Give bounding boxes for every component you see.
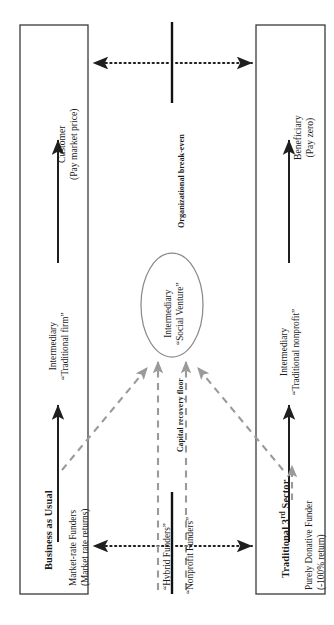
third-sector-title: Traditional 3rd Sector: [278, 480, 293, 578]
label-business-as-usual-body: Market-rate Funders (Market rate returns…: [68, 509, 92, 586]
dashed-arrow-from-third-sector: [198, 368, 283, 470]
beneficiary-line2: (Pay zero): [304, 115, 316, 160]
third-sector-title-pre: Traditional 3: [280, 519, 291, 578]
social-venture-line2: “Social Venture”: [175, 282, 187, 345]
third-sector-line1: Purely Donative Funder: [304, 501, 316, 590]
intermediary-right-line2: “Traditional nonprofit”: [291, 309, 303, 395]
label-organizational-break-even: Organizational break-even: [177, 134, 188, 228]
label-intermediary-traditional-firm: Intermediary “Traditional firm”: [48, 312, 72, 380]
label-capital-recovery-floor: Capital recovery floor: [176, 378, 186, 452]
hybrid-funders-text: “Hybrid Funders”: [162, 523, 174, 590]
beneficiary-line1: Beneficiary: [292, 115, 304, 160]
label-customer: Customer (Pay market price): [56, 109, 81, 180]
label-business-as-usual-title: Business as Usual: [42, 490, 55, 570]
customer-line1: Customer: [56, 109, 68, 180]
capital-recovery-text: Capital recovery floor: [176, 378, 186, 452]
nonprofit-funders-text: “Nonprofit Funders”: [185, 517, 197, 594]
label-nonprofit-funders: “Nonprofit Funders”: [185, 517, 197, 594]
third-sector-title-sup: rd: [278, 511, 287, 519]
label-hybrid-funders: “Hybrid Funders”: [162, 523, 174, 590]
dashed-arrow-from-business: [62, 368, 147, 470]
break-even-text: Organizational break-even: [177, 134, 188, 228]
label-third-sector-title: Traditional 3rd Sector: [278, 480, 293, 578]
label-beneficiary: Beneficiary (Pay zero): [292, 115, 317, 160]
label-third-sector-body: Purely Donative Funder (-100% return): [304, 501, 328, 590]
diagram-canvas: Customer (Pay market price) Beneficiary …: [0, 0, 334, 625]
intermediary-left-line1: Intermediary: [48, 312, 60, 380]
intermediary-left-line2: “Traditional firm”: [60, 312, 72, 380]
customer-line2: (Pay market price): [68, 109, 80, 180]
intermediary-right-line1: Intermediary: [279, 309, 291, 395]
business-line1: Market-rate Funders: [68, 509, 80, 586]
label-intermediary-traditional-nonprofit: Intermediary “Traditional nonprofit”: [279, 309, 303, 395]
social-venture-line1: Intermediary: [163, 282, 175, 345]
third-sector-title-post: Sector: [280, 480, 291, 512]
business-line2: (Market rate returns): [80, 509, 92, 586]
label-social-venture: Intermediary “Social Venture”: [163, 282, 187, 345]
business-title: Business as Usual: [42, 490, 55, 570]
third-sector-line2: (-100% return): [316, 501, 328, 590]
